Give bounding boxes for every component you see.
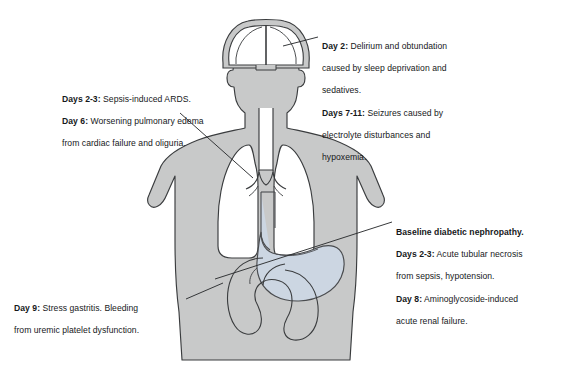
- annot-label: Days 7-11:: [322, 108, 365, 118]
- annot-text: Sepsis-induced ARDS.: [101, 94, 191, 104]
- gastrointestinal-annotation: Day 9: Stress gastritis. Bleeding from u…: [14, 292, 224, 347]
- annot-label: Day 6:: [62, 116, 88, 126]
- annot-text: hypoxemia.: [322, 152, 366, 162]
- annot-text: Aminoglycoside-induced: [422, 294, 518, 304]
- annot-text: Acute tubular necrosis: [435, 249, 523, 259]
- annot-text: Stress gastritis. Bleeding: [40, 303, 138, 313]
- annot-label: Day 9:: [14, 303, 40, 313]
- annot-text: from sepsis, hypotension.: [396, 271, 495, 281]
- annot-text: from cardiac failure and oliguria.: [62, 138, 186, 148]
- annot-label: Baseline diabetic nephropathy.: [396, 227, 524, 237]
- annot-text: caused by sleep deprivation and: [322, 63, 447, 73]
- annot-text: Delirium and obtundation: [348, 41, 447, 51]
- annot-text: acute renal failure.: [396, 316, 468, 326]
- annot-text: electrolyte disturbances and: [322, 130, 430, 140]
- annot-label: Days 2-3:: [62, 94, 101, 104]
- annot-text: Seizures caused by: [365, 108, 443, 118]
- annot-label: Day 8:: [396, 294, 422, 304]
- renal-annotation: Baseline diabetic nephropathy. Days 2-3:…: [396, 216, 568, 338]
- annot-text: from uremic platelet dysfunction.: [14, 325, 139, 335]
- annot-text: Worsening pulmonary edema: [88, 116, 204, 126]
- pulmonary-annotation: Days 2-3: Sepsis-induced ARDS. Day 6: Wo…: [62, 83, 286, 161]
- annot-text: sedatives.: [322, 85, 361, 95]
- annot-label: Day 2:: [322, 41, 348, 51]
- brain-organ: [223, 20, 309, 71]
- annot-label: Days 2-3:: [396, 249, 435, 259]
- neurologic-annotation: Day 2: Delirium and obtundation caused b…: [322, 30, 550, 174]
